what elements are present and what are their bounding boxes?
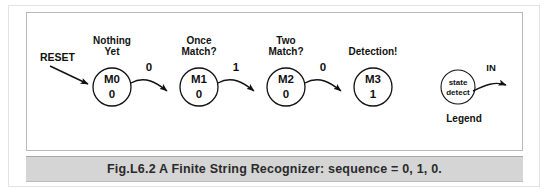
state-m3-caption-line1: Detection! [349,46,398,57]
state-m2-id: M2 [278,73,294,85]
state-m0-id: M0 [104,73,120,85]
reset-arrow-group: RESET [40,51,88,84]
transition-m0-m1-path[interactable] [131,80,167,91]
state-m2-caption-line1: Two [276,35,295,46]
transition-m0-m1-label: 0 [146,61,152,73]
state-m3-id: M3 [365,73,381,85]
transition-m1-m2-path[interactable] [218,80,254,91]
figure-caption-text: Fig.L6.2 A Finite String Recognizer: seq… [107,162,442,176]
state-m3-output: 1 [370,88,377,100]
transition-m2-m3-label: 0 [320,61,326,73]
state-node-m0[interactable]: Nothing Yet M0 0 [93,35,131,106]
figure-caption-band: Fig.L6.2 A Finite String Recognizer: seq… [26,156,523,182]
state-diagram-panel: RESET Nothing Yet M0 0 0 Once Match? [26,12,523,151]
transition-m2-m3-path[interactable] [305,80,341,91]
legend-title: Legend [446,113,482,124]
transition-m1-m2-label: 1 [233,61,240,73]
state-node-m2[interactable]: Two Match? M2 0 [267,35,305,106]
state-node-m1[interactable]: Once Match? M1 0 [180,35,218,106]
transition-m2-m3[interactable]: 0 [305,61,341,91]
reset-label: RESET [40,51,76,63]
state-m1-output: 0 [196,88,202,100]
state-m0-caption-line1: Nothing [93,35,131,46]
state-m1-id: M1 [191,73,208,85]
figure-root: RESET Nothing Yet M0 0 0 Once Match? [0,0,549,194]
state-m1-caption-line1: Once [186,35,211,46]
state-m2-output: 0 [283,88,289,100]
legend-input-arrow [473,83,506,91]
legend-input-label: IN [486,62,496,73]
state-node-m3[interactable]: Detection! M3 1 [349,46,398,106]
legend-circle-line1: state [449,78,468,87]
state-m0-caption-line2: Yet [104,46,120,57]
legend-circle-line2: detect [446,88,470,97]
state-diagram-svg: RESET Nothing Yet M0 0 0 Once Match? [27,13,522,150]
transition-m0-m1[interactable]: 0 [131,61,167,91]
reset-arrow-line [50,66,88,84]
legend-group: state detect IN Legend [441,62,506,124]
state-m1-caption-line2: Match? [182,46,217,57]
state-m2-caption-line2: Match? [269,46,304,57]
state-m0-output: 0 [109,88,115,100]
legend-state-circle [441,70,475,104]
transition-m1-m2[interactable]: 1 [218,61,254,91]
